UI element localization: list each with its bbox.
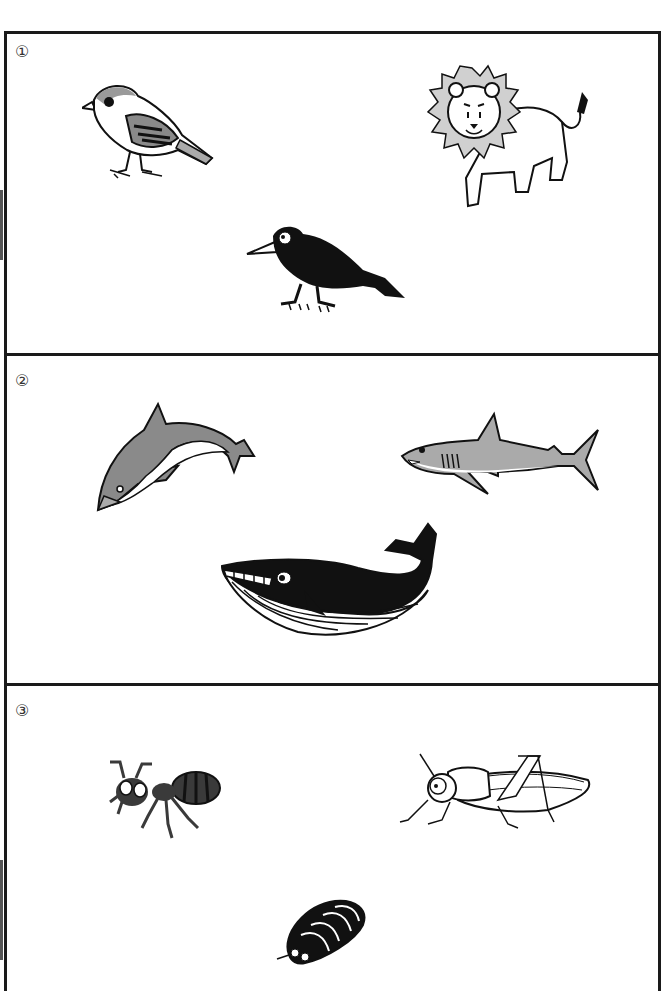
sparrow-illustration: [82, 80, 222, 185]
pill-bug-illustration: [275, 895, 370, 965]
crow-illustration: [245, 222, 410, 317]
section-number: ①: [15, 44, 29, 60]
whale-illustration: [218, 520, 448, 645]
page-edge-mark: [0, 190, 3, 260]
section-number: ③: [15, 703, 29, 719]
section-divider-2-3: [4, 683, 661, 686]
shark-illustration: [398, 410, 603, 495]
lion-illustration: [422, 62, 592, 212]
grasshopper-illustration: [398, 750, 598, 835]
page-edge-mark: [0, 860, 3, 960]
section-number: ②: [15, 373, 29, 389]
dolphin-illustration: [94, 400, 259, 515]
ant-illustration: [108, 758, 223, 843]
section-divider-1-2: [4, 353, 661, 356]
